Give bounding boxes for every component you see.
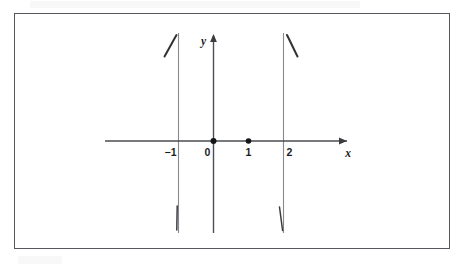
figure-root: −1 0 1 2 x y: [0, 0, 465, 270]
curve-branch-group: [165, 35, 298, 231]
tick-label-minus-1: −1: [165, 146, 177, 158]
asymptote-group: [179, 33, 284, 233]
tick-label-1: 1: [246, 146, 252, 158]
x-axis-arrowhead: [339, 138, 347, 145]
point-x-1: [246, 138, 252, 144]
upper-right-branch: [287, 35, 298, 57]
y-axis-arrowhead: [210, 34, 217, 42]
tick-label-2: 2: [287, 146, 293, 158]
coordinate-plot: −1 0 1 2 x y: [0, 0, 465, 270]
y-axis-label: y: [199, 35, 207, 48]
tick-label-group: −1 0 1 2: [165, 146, 293, 158]
point-origin: [211, 138, 217, 144]
x-axis-label: x: [344, 147, 351, 159]
lower-right-branch: [280, 207, 283, 231]
tick-label-0: 0: [205, 146, 211, 158]
axis-group: [105, 34, 347, 233]
upper-left-branch: [165, 35, 177, 57]
